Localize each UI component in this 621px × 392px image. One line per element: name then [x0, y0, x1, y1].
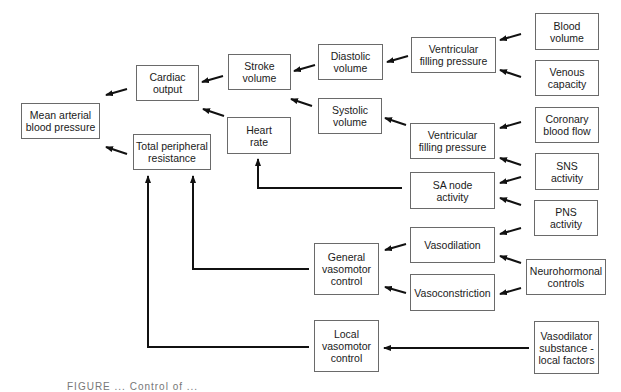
node-vasodilator-substance: Vasodilator substance - local factors [534, 321, 599, 374]
node-sa-node-activity: SA node activity [410, 172, 495, 209]
node-heart-rate: Heart rate [227, 117, 291, 154]
node-venous-capacity: Venous capacity [535, 60, 599, 96]
node-local-vasomotor-control: Local vasomotor control [314, 320, 379, 372]
node-neurohormonal-controls: Neurohormonal controls [526, 259, 606, 295]
node-coronary-blood-flow: Coronary blood flow [535, 107, 599, 143]
node-diastolic-volume: Diastolic volume [318, 44, 383, 80]
node-general-vasomotor-control: General vasomotor control [314, 243, 379, 295]
node-ventricular-filling-pressure-bottom: Ventricular filling pressure [410, 123, 495, 159]
node-cardiac-output: Cardiac output [136, 65, 199, 101]
node-ventricular-filling-pressure-top: Ventricular filling pressure [411, 37, 496, 73]
node-stroke-volume: Stroke volume [228, 54, 291, 90]
node-pns-activity: PNS activity [534, 200, 598, 236]
node-sns-activity: SNS activity [535, 153, 599, 190]
node-systolic-volume: Systolic volume [318, 98, 382, 134]
node-blood-volume: Blood volume [535, 13, 599, 50]
node-total-peripheral-resistance: Total peripheral resistance [133, 134, 211, 170]
node-vasoconstriction: Vasoconstriction [410, 274, 495, 311]
figure-caption: FIGURE ... Control of ... [67, 381, 198, 392]
node-mean-arterial-blood-pressure: Mean arterial blood pressure [21, 103, 100, 139]
node-vasodilation: Vasodilation [410, 227, 495, 263]
